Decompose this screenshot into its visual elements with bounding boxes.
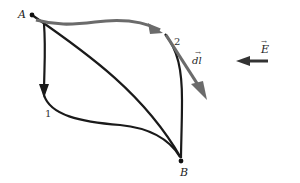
path-1 <box>44 24 180 157</box>
point-a-dot <box>30 13 35 18</box>
path-1-label: 1 <box>45 108 51 119</box>
dl-vector-mark: → <box>195 49 201 57</box>
field-line-integral-diagram: A B 1 2 dl → E → <box>0 0 300 183</box>
point-b-dot <box>179 159 184 164</box>
point-b-label: B <box>179 166 188 179</box>
path-2-label: 2 <box>174 36 180 47</box>
e-field-vector-mark: → <box>261 38 267 46</box>
path-1-arrowhead <box>39 84 49 98</box>
path-2-arrowhead <box>148 23 163 34</box>
path-2-lower <box>165 34 182 158</box>
point-a-label: A <box>17 8 26 21</box>
dl-arrowhead <box>191 81 207 100</box>
e-field-arrowhead <box>236 56 250 66</box>
path-2-upper <box>36 20 160 30</box>
